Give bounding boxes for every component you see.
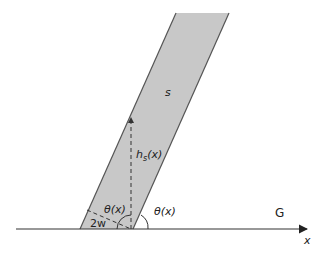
diagram-canvas: s hs(x) θ(x) θ(x) 2w G x bbox=[0, 0, 326, 254]
ground-label: G bbox=[275, 206, 284, 220]
angle-outer-arc bbox=[141, 215, 148, 229]
diagram-svg: s hs(x) θ(x) θ(x) 2w G x bbox=[0, 0, 326, 254]
x-axis-label: x bbox=[303, 234, 311, 247]
width-label: 2w bbox=[90, 217, 106, 230]
angle-inner-label: θ(x) bbox=[104, 203, 126, 216]
strip-label: s bbox=[165, 86, 171, 99]
angle-outer-label: θ(x) bbox=[154, 205, 176, 218]
height-label: hs(x) bbox=[136, 148, 162, 163]
strip-s bbox=[80, 13, 229, 229]
